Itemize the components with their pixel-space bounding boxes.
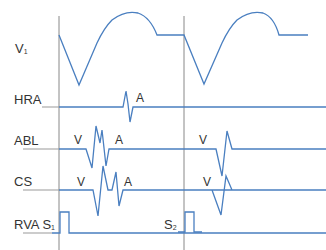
cs-a-label: A	[124, 176, 132, 188]
cs-trace	[59, 166, 326, 216]
abl-v-label-1: V	[74, 134, 82, 146]
channel-label-cs: CS	[14, 175, 32, 188]
cs-v-label-2: V	[203, 176, 211, 188]
cs-v-label-1: V	[77, 176, 85, 188]
hra-a-label: A	[136, 92, 144, 104]
abl-a-label: A	[115, 134, 123, 146]
channel-label-v1-sub: 1	[24, 48, 28, 55]
channel-label-hra-name: HRA	[14, 92, 41, 107]
stimulus-label-s2-sub: 2	[173, 224, 177, 231]
channel-label-rva-sub: 1	[51, 224, 55, 231]
rva-trace	[52, 212, 326, 233]
channel-label-abl: ABL	[14, 134, 39, 147]
channel-label-v1: V1	[15, 42, 28, 55]
electrogram-diagram	[0, 0, 326, 250]
hra-trace	[59, 91, 326, 122]
channel-label-hra: HRA	[14, 93, 41, 106]
rva-s2-pulse	[178, 212, 202, 232]
stimulus-label-s2-name: S	[164, 217, 173, 232]
channel-label-cs-name: CS	[14, 174, 32, 189]
abl-trace	[59, 126, 326, 176]
channel-label-rva-name: RVA S	[14, 217, 51, 232]
stimulus-label-s2: S2	[164, 218, 177, 231]
channel-label-abl-name: ABL	[14, 133, 39, 148]
channel-label-v1-name: V	[15, 41, 24, 56]
channel-label-rva-s1: RVA S1	[14, 218, 55, 231]
abl-v-label-2: V	[199, 134, 207, 146]
